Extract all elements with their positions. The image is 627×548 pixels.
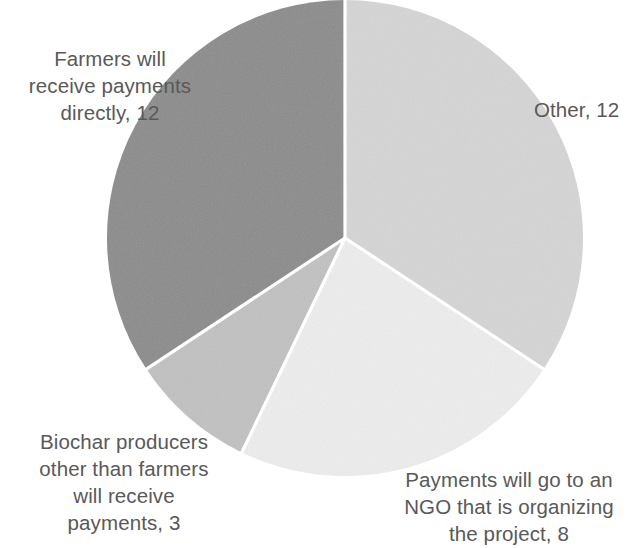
pie-label-biochar: Biochar producers other than farmers wil… <box>20 428 228 536</box>
pie-label-farmers: Farmers will receive payments directly, … <box>4 45 216 126</box>
pie-chart-figure: Farmers will receive payments directly, … <box>0 0 627 548</box>
pie-label-ngo: Payments will go to an NGO that is organ… <box>396 466 622 547</box>
pie-label-other: Other, 12 <box>534 96 627 123</box>
